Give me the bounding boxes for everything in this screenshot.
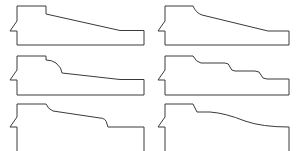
profiles-svg	[0, 0, 298, 151]
profile-6	[158, 104, 289, 151]
profile-5	[10, 104, 144, 151]
profiles-diagram	[0, 0, 298, 151]
profile-4	[158, 56, 289, 95]
profile-2	[158, 6, 289, 45]
profile-3	[10, 56, 144, 95]
profile-1	[10, 6, 144, 45]
